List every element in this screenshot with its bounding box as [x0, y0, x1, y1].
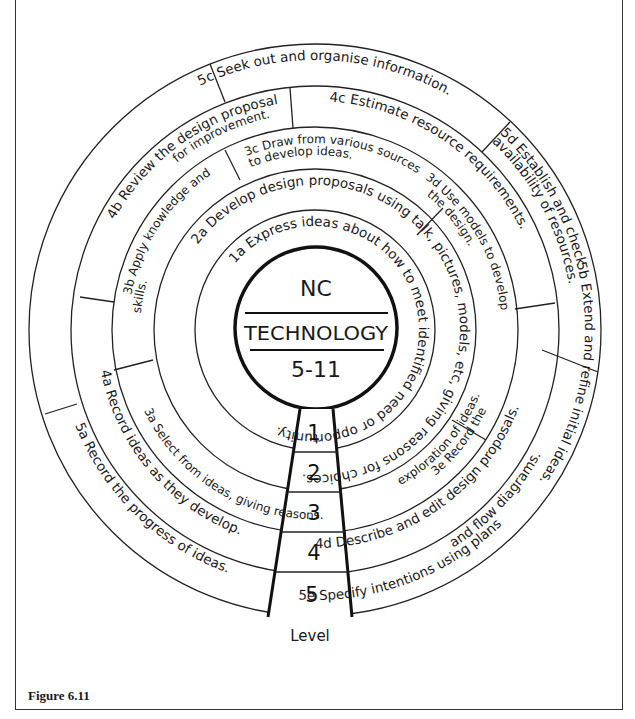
- center-title-nc: NC: [300, 276, 332, 301]
- statement-5c: 5c Seek out and organise information.: [195, 47, 455, 98]
- nc-technology-wheel-diagram: 1 2 3 4 5 Level NC TECHNOLOGY 5-11 1a Ex…: [0, 0, 635, 719]
- statement-4c: 4c Estimate resource requirements.: [329, 88, 533, 231]
- center-age-range: 5-11: [291, 357, 341, 382]
- center-title-technology: TECHNOLOGY: [243, 321, 389, 345]
- statement-5a: 5a Record the progress of ideas.: [72, 420, 232, 576]
- statement-5b: 5b Extend and refine initial ideas.: [536, 260, 598, 488]
- figure-caption: Figure 6.11: [28, 688, 90, 704]
- level-axis-label: Level: [290, 627, 330, 645]
